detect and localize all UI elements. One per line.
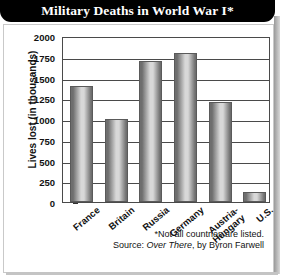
y-tick-label: 500 — [39, 156, 55, 167]
card-shadow-bottom — [6, 272, 278, 275]
plot-box — [62, 37, 270, 203]
y-tick-label: 0 — [50, 198, 55, 209]
y-tick-label: 2000 — [34, 32, 55, 43]
y-tick-label: 1250 — [34, 94, 55, 105]
gridline — [63, 183, 269, 184]
y-tick-label: 1750 — [34, 52, 55, 63]
gridline — [63, 142, 269, 143]
chart-title-bar: Military Deaths in World War I* — [0, 0, 275, 22]
chart-title: Military Deaths in World War I* — [41, 4, 234, 18]
source-suffix: , by Byron Farwell — [192, 240, 264, 250]
source-prefix: Source: — [113, 240, 144, 250]
bar — [209, 102, 232, 202]
bar — [70, 86, 93, 202]
card-shadow-right — [274, 16, 280, 274]
y-tick-label: 250 — [39, 177, 55, 188]
y-tick-label: 750 — [39, 135, 55, 146]
footnote-source: Source: Over There, by Byron Farwell — [8, 240, 264, 251]
gridline — [63, 80, 269, 81]
y-tick-label: 1500 — [34, 73, 55, 84]
y-tick-label: 1000 — [34, 115, 55, 126]
gridline — [63, 121, 269, 122]
source-title: Over There — [146, 240, 192, 250]
gridline — [63, 59, 269, 60]
chart-figure: Military Deaths in World War I* Lives lo… — [0, 0, 282, 276]
y-axis-ticks: 200017501500125010007505002500 — [19, 37, 57, 203]
footnote-asterisk: *Not all countries are listed. — [8, 229, 264, 240]
y-tick-mark — [73, 203, 78, 204]
bar — [174, 53, 197, 202]
gridline — [63, 163, 269, 164]
gridline — [63, 100, 269, 101]
bar — [243, 192, 266, 202]
chart-footnotes: *Not all countries are listed. Source: O… — [8, 229, 264, 252]
bar — [139, 61, 162, 202]
bar — [105, 119, 128, 202]
